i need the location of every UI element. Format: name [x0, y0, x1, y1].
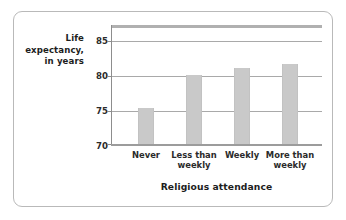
x-axis-title: Religious attendance [111, 181, 322, 192]
plot-area [111, 25, 322, 146]
x-tick-label-more-than-weekly-line-2: weekly [259, 160, 321, 170]
y-axis-title-line-3: in years [8, 56, 84, 68]
tick-mark-85 [107, 41, 111, 42]
bar-less-than-weekly[interactable] [186, 75, 202, 144]
x-tick-label-more-than-weekly: More than weekly [259, 150, 321, 171]
y-axis-title-line-1: Life [8, 33, 84, 45]
plot-top-band [111, 25, 322, 28]
y-axis-tick-labels: 85 80 75 70 [84, 0, 108, 220]
y-tick-label-75: 75 [84, 106, 108, 116]
bar-weekly[interactable] [234, 68, 250, 144]
y-tick-label-80: 80 [84, 71, 108, 81]
tick-mark-80 [107, 76, 111, 77]
bar-chart: Life expectancy, in years 85 80 75 70 Ne… [0, 0, 346, 220]
bar-never[interactable] [138, 108, 154, 144]
x-tick-label-more-than-weekly-line-1: More than [259, 150, 321, 160]
y-axis-title: Life expectancy, in years [8, 33, 84, 68]
bar-more-than-weekly[interactable] [282, 64, 298, 144]
y-tick-label-85: 85 [84, 36, 108, 46]
y-tick-label-70: 70 [84, 141, 108, 151]
x-axis-line [111, 144, 322, 146]
x-tick-label-less-than-weekly-line-2: weekly [163, 160, 225, 170]
y-axis-line [111, 25, 112, 146]
tick-mark-75 [107, 111, 111, 112]
y-axis-title-line-2: expectancy, [8, 45, 84, 57]
gridline-85 [112, 41, 322, 42]
tick-mark-70 [107, 144, 111, 145]
